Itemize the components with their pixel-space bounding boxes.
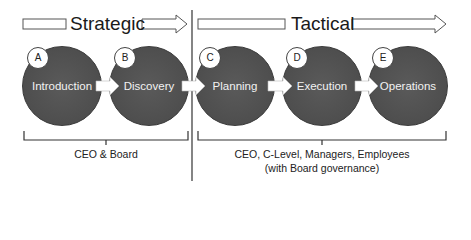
arrow-right-icon bbox=[182, 77, 205, 95]
strategic-audience: CEO & Board bbox=[56, 147, 156, 161]
arrow-right-icon bbox=[96, 77, 119, 95]
tactical-audience-line2: (with Board governance) bbox=[222, 161, 422, 175]
arrow-right-icon bbox=[268, 77, 292, 95]
tactical-audience-line1: CEO, C-Level, Managers, Employees bbox=[222, 147, 422, 161]
arrow-right-icon bbox=[355, 77, 378, 95]
